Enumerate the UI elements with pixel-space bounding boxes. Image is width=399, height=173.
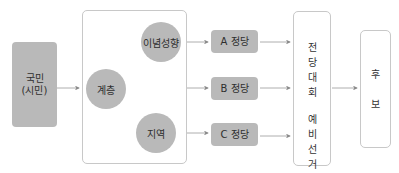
citizen-box: 국민 (시민) bbox=[12, 42, 57, 127]
region-label: 지역 bbox=[147, 126, 165, 141]
ideology-circle: 이념성향 bbox=[141, 22, 181, 62]
party-a-label: A 정당 bbox=[220, 36, 248, 48]
party-a-box: A 정당 bbox=[211, 30, 258, 53]
party-c-box: C 정당 bbox=[211, 123, 258, 146]
party-b-box: B 정당 bbox=[211, 77, 258, 100]
region-circle: 지역 bbox=[136, 113, 176, 153]
arrows-layer bbox=[0, 0, 399, 173]
citizen-label-line2: (시민) bbox=[22, 85, 48, 97]
party-b-label: B 정당 bbox=[220, 83, 248, 95]
convention-box: 전 당 대 회 예 비 선 거 bbox=[293, 11, 331, 166]
candidate-box: 후 보 bbox=[360, 30, 391, 148]
ideology-label: 이념성향 bbox=[143, 35, 179, 50]
citizen-label-line1: 국민 bbox=[22, 73, 48, 85]
convention-label: 전 당 대 회 예 비 선 거 bbox=[294, 40, 330, 172]
party-c-label: C 정당 bbox=[220, 129, 248, 141]
class-circle: 계층 bbox=[86, 69, 126, 109]
class-label: 계층 bbox=[97, 82, 115, 97]
candidate-label: 후 보 bbox=[361, 67, 390, 112]
